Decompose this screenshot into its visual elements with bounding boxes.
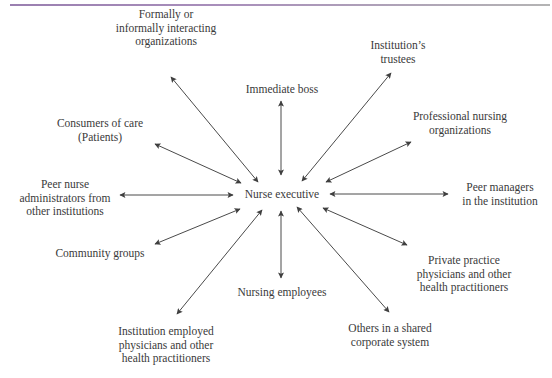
node-label-line: Formally or [116, 8, 217, 22]
node-peer-nurse: Peer nurseadministrators fromother insti… [19, 178, 110, 219]
double-arrow-community [155, 209, 240, 244]
node-label-line: health practitioners [118, 352, 214, 366]
node-label-line: Consumers of care [57, 117, 143, 131]
node-label-line: Peer nurse [19, 178, 110, 192]
node-label-line: physicians and other [118, 339, 214, 353]
node-peer-managers: Peer managersin the institution [462, 181, 537, 208]
node-label-line: Others in a shared [348, 322, 431, 336]
node-label-line: trustees [371, 53, 426, 67]
node-community: Community groups [55, 247, 144, 261]
node-private: Private practicephysicians and otherheal… [417, 254, 512, 295]
node-label-line: other institutions [19, 205, 110, 219]
node-label-line: Institution employed [118, 325, 214, 339]
node-trustees: Institution’strustees [371, 39, 426, 66]
node-label-line: corporate system [348, 336, 431, 350]
node-immediate-boss: Immediate boss [246, 83, 319, 97]
node-label-line: Private practice [417, 254, 512, 268]
node-label-line: physicians and other [417, 268, 512, 282]
node-inst-employed: Institution employedphysicians and other… [118, 325, 214, 366]
node-label-line: organizations [413, 124, 507, 138]
center-node-label: Nurse executive [245, 188, 319, 200]
node-label-line: Professional nursing [413, 110, 507, 124]
node-label-line: Community groups [55, 247, 144, 261]
center-node-nurse-executive: Nurse executive [245, 187, 319, 201]
node-label-line: informally interacting [116, 22, 217, 36]
node-label-line: Immediate boss [246, 83, 319, 97]
node-professional: Professional nursingorganizations [413, 110, 507, 137]
node-label-line: health practitioners [417, 281, 512, 295]
node-label-line: Institution’s [371, 39, 426, 53]
node-label-line: administrators from [19, 192, 110, 206]
double-arrow-professional [326, 142, 411, 182]
node-label-line: in the institution [462, 195, 537, 209]
node-formally: Formally orinformally interactingorganiz… [116, 8, 217, 49]
node-others-shared: Others in a sharedcorporate system [348, 322, 431, 349]
node-label-line: Nursing employees [237, 286, 326, 300]
double-arrow-consumers [155, 144, 241, 183]
node-label-line: organizations [116, 35, 217, 49]
double-arrow-private [323, 208, 407, 245]
node-label-line: Peer managers [462, 181, 537, 195]
node-nursing-employees: Nursing employees [237, 286, 326, 300]
node-consumers: Consumers of care(Patients) [57, 117, 143, 144]
node-label-line: (Patients) [57, 131, 143, 145]
